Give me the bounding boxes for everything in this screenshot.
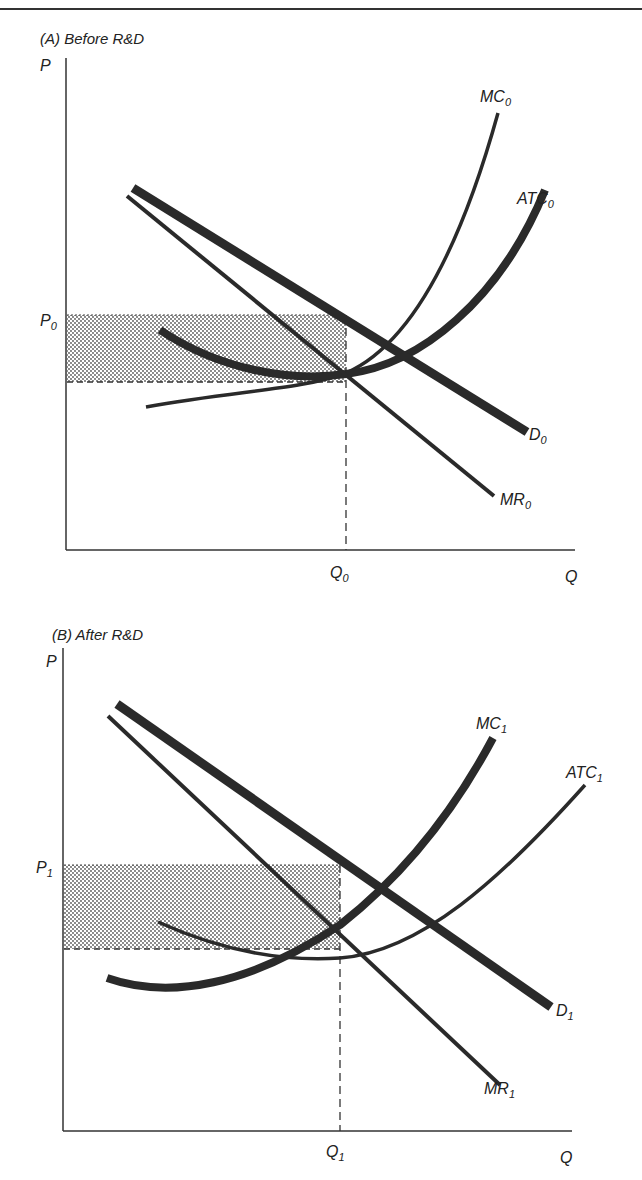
panel-a-mr0-label: MR0 [500, 491, 532, 511]
panel-a-mc0-label: MC0 [480, 88, 512, 108]
panel-a-title: (A) Before R&D [40, 30, 144, 47]
panel-b-atc1-label: ATC1 [565, 764, 603, 784]
panel-b-mr1-label: MR1 [484, 1080, 515, 1100]
panel-b-y-axis-label: P [46, 653, 57, 670]
panel-a-x-axis-label: Q [565, 568, 577, 585]
panel-a-y-axis-label: P [40, 57, 51, 74]
panel-a-q0-label: Q0 [330, 564, 349, 584]
panel-b-mc1-curve [107, 738, 493, 988]
panel-a-d0-label: D0 [529, 426, 548, 446]
panel-b-p1-label: P1 [36, 859, 53, 879]
panel-b-title: (B) After R&D [52, 626, 143, 643]
panel-b-x-axis-label: Q [560, 1149, 572, 1166]
panel-b-q1-label: Q1 [326, 1143, 345, 1163]
panel-b-mc1-label: MC1 [476, 715, 507, 735]
panel-b: (B) After R&D P Q P1 Q1 MC1 ATC1 D1 MR1 [36, 626, 603, 1166]
panel-a-p0-label: P0 [40, 312, 58, 332]
panel-b-d1-label: D1 [556, 1002, 574, 1022]
panel-a: (A) Before R&D P Q P0 Q0 MC0 ATC0 D0 MR0 [40, 30, 577, 585]
figure-canvas: (A) Before R&D P Q P0 Q0 MC0 ATC0 D0 MR0… [0, 0, 642, 1180]
panel-a-profit-area [67, 315, 346, 382]
panel-b-profit-area [64, 865, 340, 949]
